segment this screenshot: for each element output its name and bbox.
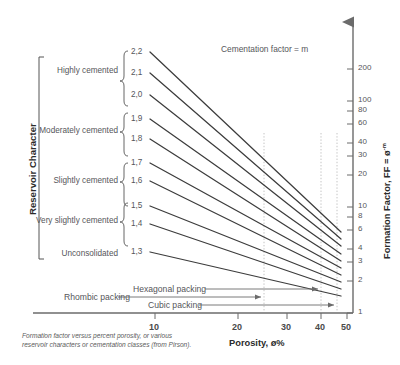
m-curves bbox=[150, 52, 341, 296]
group-label-slightly-cemented: Slightly cemented bbox=[0, 176, 118, 185]
x-axis-ticks bbox=[155, 313, 347, 319]
rhombic-packing-label: Rhombic packing bbox=[64, 292, 130, 302]
y-tick-label-6: 6 bbox=[358, 224, 362, 233]
cementation-factor-note: Cementation factor = m bbox=[221, 44, 308, 54]
x-tick-label-10: 10 bbox=[149, 322, 159, 332]
y-axis-title: Formation Factor, FF = ø-m bbox=[381, 143, 392, 259]
m-value-label-1-5: 1,5 bbox=[131, 201, 142, 210]
caption-line-1: Formation factor versus percent porosity… bbox=[22, 332, 172, 339]
y-tick-label-4: 4 bbox=[358, 243, 362, 252]
y-tick-label-8: 8 bbox=[358, 211, 362, 220]
y-tick-label-100: 100 bbox=[358, 95, 371, 104]
m-line-2-1 bbox=[150, 73, 341, 239]
m-line-2-2 bbox=[150, 52, 341, 232]
y-tick-label-3: 3 bbox=[358, 256, 362, 265]
y-axis-title-text: Formation Factor, FF = ø bbox=[382, 150, 392, 259]
y-tick-label-2: 2 bbox=[358, 275, 362, 284]
y-tick-label-60: 60 bbox=[358, 118, 367, 127]
x-axis-title: Porosity, ø% bbox=[229, 338, 285, 348]
m-line-2-0 bbox=[150, 95, 341, 246]
reservoir-character-title: Reservoir Character bbox=[27, 123, 38, 215]
y-axis-ticks bbox=[347, 69, 353, 313]
m-value-label-1-6: 1,6 bbox=[131, 176, 142, 185]
figure-caption: Formation factor versus percent porosity… bbox=[22, 332, 207, 350]
y-tick-label-200: 200 bbox=[358, 63, 371, 72]
m-line-1-8 bbox=[150, 139, 341, 261]
chart-figure: Reservoir Character Highly cemented Mode… bbox=[0, 0, 400, 365]
m-value-label-1-8: 1,8 bbox=[131, 134, 142, 143]
y-axis-title-exponent: -m bbox=[381, 143, 387, 150]
y-tick-label-30: 30 bbox=[358, 150, 367, 159]
m-value-label-2-0: 2,0 bbox=[131, 90, 142, 99]
y-tick-label-1: 1 bbox=[358, 307, 362, 316]
m-line-1-6 bbox=[150, 181, 341, 275]
y-tick-label-40: 40 bbox=[358, 137, 367, 146]
x-tick-label-20: 20 bbox=[232, 322, 242, 332]
caption-line-2: reservoir characters or cementation clas… bbox=[22, 341, 191, 348]
hexagonal-packing-label: Hexagonal packing bbox=[133, 284, 206, 294]
cubic-packing-label: Cubic packing bbox=[148, 300, 202, 310]
x-tick-label-30: 30 bbox=[281, 322, 291, 332]
m-value-label-1-3: 1,3 bbox=[131, 247, 142, 256]
m-value-label-1-4: 1,4 bbox=[131, 219, 142, 228]
m-value-label-2-2: 2,2 bbox=[131, 47, 142, 56]
y-tick-label-10: 10 bbox=[358, 201, 367, 210]
x-tick-label-50: 50 bbox=[341, 322, 351, 332]
m-line-1-7 bbox=[150, 163, 341, 268]
m-line-1-5 bbox=[150, 206, 341, 282]
group-label-unconsolidated: Unconsolidated bbox=[0, 249, 118, 258]
y-tick-label-80: 80 bbox=[358, 105, 367, 114]
m-value-label-1-9: 1,9 bbox=[131, 114, 142, 123]
reservoir-character-bracket bbox=[39, 57, 44, 259]
group-label-moderately-cemented: Moderately cemented bbox=[0, 126, 118, 135]
group-label-highly-cemented: Highly cemented bbox=[0, 66, 118, 75]
x-tick-label-40: 40 bbox=[315, 322, 325, 332]
m-value-label-1-7: 1,7 bbox=[131, 158, 142, 167]
m-value-label-2-1: 2,1 bbox=[131, 68, 142, 77]
group-label-very-slightly-cemented: Very slightly cemented bbox=[0, 216, 118, 225]
group-brackets bbox=[120, 51, 128, 246]
y-tick-label-20: 20 bbox=[358, 169, 367, 178]
